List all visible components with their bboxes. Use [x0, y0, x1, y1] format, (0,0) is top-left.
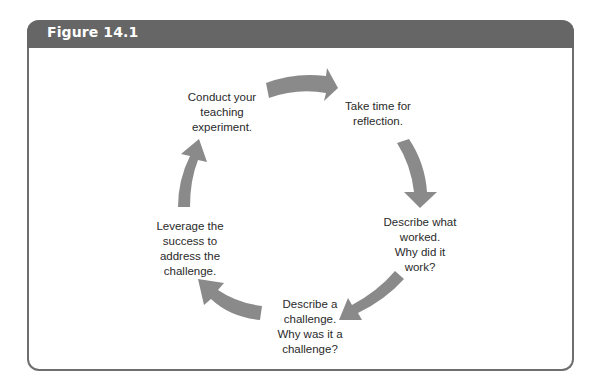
- curved-arrow-up-icon: [178, 139, 207, 207]
- step-leverage-label: Leverage the success to address the chal…: [148, 219, 232, 279]
- step-worked-label: Describe what worked. Why did it work?: [375, 215, 465, 275]
- step-conduct-label: Conduct your teaching experiment.: [182, 90, 262, 135]
- curved-arrow-down-icon: [397, 139, 437, 208]
- step-reflect-label: Take time for reflection.: [336, 99, 420, 129]
- step-challenge-label: Describe a challenge. Why was it a chall…: [267, 297, 353, 357]
- curved-arrow-right-icon: [266, 68, 338, 101]
- curved-arrow-up-left-icon: [198, 279, 262, 320]
